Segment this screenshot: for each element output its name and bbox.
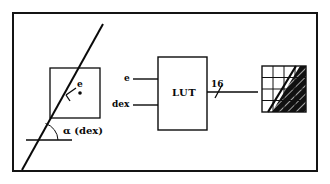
bus-width-label: 16 xyxy=(211,80,224,89)
coverage-grid-group xyxy=(262,66,306,112)
edge-line xyxy=(22,24,103,170)
edge-normal-tick xyxy=(66,95,70,101)
lut-block-label: LUT xyxy=(172,88,196,98)
angle-label-alpha: α (dex) xyxy=(63,126,103,136)
edge-normal-dot xyxy=(78,91,82,95)
figure-canvas: e α (dex) e dex LUT 16 xyxy=(0,0,330,184)
edge-label-e: e xyxy=(77,80,83,89)
lut-input-label-e: e xyxy=(124,74,130,83)
figure-vector-layer xyxy=(0,0,330,184)
lut-input-label-dex: dex xyxy=(112,100,129,109)
edge-geometry-group xyxy=(22,24,103,170)
